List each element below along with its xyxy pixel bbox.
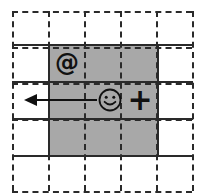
arrow-head — [24, 94, 37, 106]
movement-arrow-icon — [0, 0, 205, 193]
grid-world-figure: @ + — [0, 0, 205, 193]
